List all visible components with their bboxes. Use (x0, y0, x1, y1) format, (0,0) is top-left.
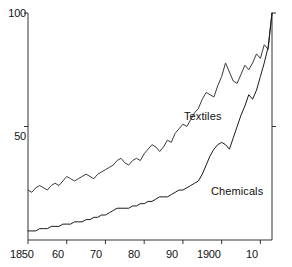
x-axis-tick-label: 70 (90, 248, 102, 260)
x-axis-tick-label: 90 (166, 248, 178, 260)
x-axis-tick-label: 60 (52, 248, 64, 260)
y-axis-tick-label: 100 (0, 7, 26, 19)
y-axis-tick-label: 50 (0, 130, 26, 142)
series-line-textiles (28, 13, 272, 192)
y-axis-ticks (24, 13, 276, 127)
chart-plot-area (0, 0, 292, 267)
series-label-chemicals: Chemicals (211, 185, 263, 197)
series-lines (28, 13, 272, 231)
x-axis-ticks (28, 240, 260, 244)
series-line-chemicals (28, 13, 272, 231)
x-axis-tick-label: 1850 (10, 248, 34, 260)
axis-group (28, 13, 272, 240)
series-label-textiles: Textiles (184, 110, 221, 122)
x-axis-tick-label: 80 (128, 248, 140, 260)
x-axis-tick-label: 1900 (197, 248, 221, 260)
x-axis-tick-label: 10 (246, 248, 258, 260)
chart-container: 10050 185060708090190010 Textiles Chemic… (0, 0, 292, 267)
